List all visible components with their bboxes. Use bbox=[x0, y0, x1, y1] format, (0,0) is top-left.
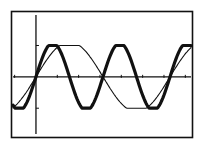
graph-plot bbox=[0, 0, 203, 148]
calculator-graph-screen bbox=[0, 0, 203, 148]
